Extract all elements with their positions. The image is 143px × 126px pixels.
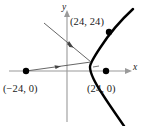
x-axis-label: x	[133, 63, 137, 73]
rays-group	[26, 23, 91, 71]
point-label-focus-left: (−24, 0)	[3, 84, 38, 95]
x-axis-arrowhead	[125, 68, 132, 74]
y-axis-label: y	[62, 3, 66, 13]
point-dot-focus-left	[23, 68, 29, 74]
point-dot-focus-right	[103, 68, 109, 74]
angle-mark-group	[93, 66, 99, 67]
conic-figure: (24, 24) (−24, 0) (24, 0) x y	[0, 0, 143, 126]
point-label-curve: (24, 24)	[70, 17, 104, 28]
point-label-focus-right: (24, 0)	[87, 84, 116, 95]
right-angle-tick	[93, 66, 99, 67]
point-dot-curve	[106, 29, 112, 35]
ray-left-arrowhead	[55, 65, 62, 69]
